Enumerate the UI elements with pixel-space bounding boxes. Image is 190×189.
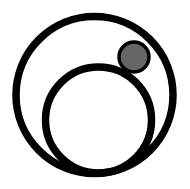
inner-ring [46, 67, 152, 173]
logo-icon [0, 0, 190, 189]
outer-ring [16, 17, 173, 174]
grey-dot [119, 42, 149, 72]
logo [0, 0, 190, 189]
